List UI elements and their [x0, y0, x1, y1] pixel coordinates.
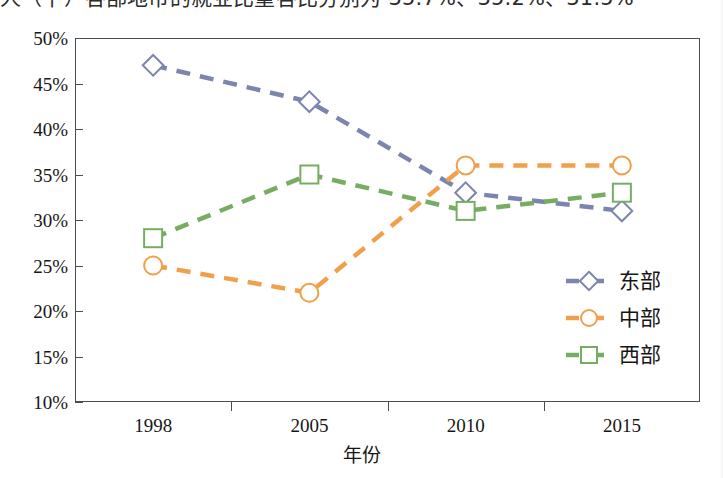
- y-axis-tick-mark: [75, 38, 83, 39]
- y-axis-tick-labels: 50%45%40%35%30%25%20%15%10%: [0, 0, 68, 478]
- line-chart: 50%45%40%35%30%25%20%15%10% 年份 东部中部西部 19…: [0, 0, 723, 478]
- legend-swatch-diamond-icon: [565, 269, 613, 293]
- y-axis-tick-label: 50%: [8, 29, 68, 48]
- y-axis-tick-label: 25%: [8, 256, 68, 275]
- x-axis-tick-label: 2015: [562, 415, 682, 437]
- y-axis-tick-label: 20%: [8, 302, 68, 321]
- legend: 东部中部西部: [565, 262, 700, 373]
- legend-label: 中部: [619, 307, 661, 329]
- y-axis-tick-label: 15%: [8, 347, 68, 366]
- y-axis-tick-label: 40%: [8, 120, 68, 139]
- y-axis-tick-mark: [75, 311, 83, 312]
- legend-marker-square-icon: [581, 347, 597, 363]
- legend-swatch-square-icon: [565, 343, 613, 367]
- y-axis-tick-mark: [75, 129, 83, 130]
- legend-label: 西部: [619, 344, 661, 366]
- legend-item-西部[interactable]: 西部: [565, 336, 700, 373]
- y-axis-tick-label: 10%: [8, 393, 68, 412]
- y-axis-tick-mark: [75, 84, 83, 85]
- y-axis-tick-label: 30%: [8, 211, 68, 230]
- x-axis-tick-label: 2005: [249, 415, 369, 437]
- legend-swatch-circle-icon: [565, 306, 613, 330]
- x-axis-tick-mark: [544, 402, 545, 411]
- legend-marker-diamond-icon: [580, 271, 598, 289]
- x-axis-tick-mark: [388, 402, 389, 411]
- y-axis-tick-mark: [75, 220, 83, 221]
- x-axis-title: 年份: [0, 444, 723, 466]
- legend-marker-circle-icon: [581, 310, 597, 326]
- x-axis-tick-label: 1998: [93, 415, 213, 437]
- y-axis-tick-mark: [75, 402, 83, 403]
- legend-label: 东部: [619, 270, 661, 292]
- legend-item-东部[interactable]: 东部: [565, 262, 700, 299]
- y-axis-tick-mark: [75, 357, 83, 358]
- x-axis-tick-label: 2010: [406, 415, 526, 437]
- y-axis-tick-label: 35%: [8, 165, 68, 184]
- y-axis-tick-label: 45%: [8, 74, 68, 93]
- legend-item-中部[interactable]: 中部: [565, 299, 700, 336]
- x-axis-tick-mark: [231, 402, 232, 411]
- y-axis-tick-mark: [75, 266, 83, 267]
- y-axis-tick-mark: [75, 175, 83, 176]
